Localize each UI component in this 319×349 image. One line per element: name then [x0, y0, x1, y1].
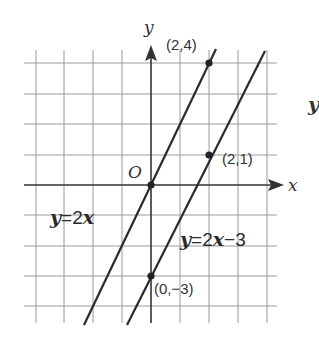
point-label-2-4: (2,4)	[166, 36, 197, 53]
origin-label: O	[128, 162, 142, 182]
point-2-1	[205, 151, 212, 158]
y-axis-label: y	[143, 17, 154, 37]
coordinate-graph: y x O (2,4) (2,1) (0,−3) y=2x y=2x−3 y	[0, 0, 319, 349]
x-axis-label: x	[288, 175, 298, 195]
point-label-0-neg3: (0,−3)	[154, 280, 194, 297]
point-2-4	[205, 59, 212, 66]
equation-label-y-2x: y=2x	[49, 206, 95, 228]
point-0-neg3	[147, 272, 154, 279]
equation-label-y-2x-minus-3: y=2x−3	[179, 228, 246, 250]
point-label-2-1: (2,1)	[222, 150, 253, 167]
point-origin	[147, 181, 154, 188]
cropped-y-fragment: y	[307, 93, 319, 115]
